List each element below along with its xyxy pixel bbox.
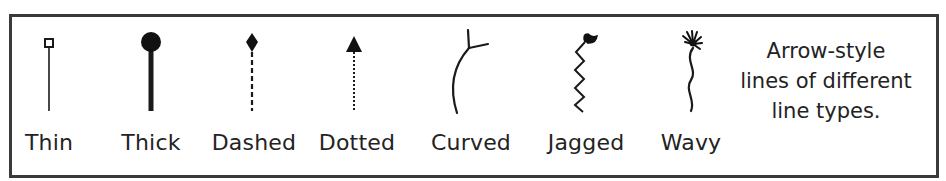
caption-line-3: line types. [731, 96, 921, 126]
wavy-arrow [683, 31, 702, 111]
diagram-caption: Arrow-style lines of different line type… [731, 36, 921, 126]
thick-arrow [141, 32, 161, 111]
label-dotted: Dotted [319, 130, 395, 156]
open-fork-icon [468, 30, 488, 48]
burst-icon [683, 31, 702, 49]
filled-circle-icon [141, 32, 161, 52]
open-hook-icon [584, 34, 597, 43]
thin-arrow [45, 39, 53, 111]
label-thick: Thick [121, 130, 180, 156]
label-curved: Curved [431, 130, 511, 156]
label-jagged: Jagged [548, 130, 625, 156]
dashed-arrow [246, 33, 258, 111]
jagged-arrow [575, 34, 597, 112]
dotted-arrow [346, 36, 362, 112]
curved-arrow [453, 30, 488, 113]
caption-line-2: lines of different [731, 66, 921, 96]
label-dashed: Dashed [212, 130, 297, 156]
filled-diamond-icon [246, 33, 258, 52]
hollow-square-icon [45, 39, 53, 47]
caption-line-1: Arrow-style [731, 36, 921, 66]
label-wavy: Wavy [661, 130, 722, 156]
label-thin: Thin [25, 130, 73, 156]
filled-triangle-icon [346, 36, 362, 52]
